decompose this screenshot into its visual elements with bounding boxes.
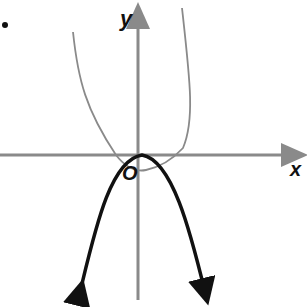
origin-label: O [122, 162, 138, 185]
x-axis-label: x [290, 158, 301, 181]
graph-svg [0, 0, 307, 307]
black-parabola [80, 155, 205, 292]
gray-parabola [73, 8, 190, 170]
graph-canvas: y x O [0, 0, 307, 307]
y-axis-label: y [120, 6, 132, 32]
